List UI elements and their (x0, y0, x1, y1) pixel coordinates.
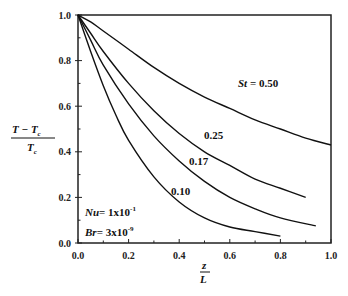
curve-label-st050: St = 0.50 (238, 77, 279, 89)
x-tick-label: 0.0 (72, 250, 85, 261)
y-tick-label: 0.8 (59, 55, 72, 66)
x-axis-label: z L (199, 259, 210, 285)
curves (78, 15, 331, 236)
y-tick-label: 0.4 (59, 146, 72, 157)
x-tick-label: 0.6 (224, 250, 237, 261)
x-tick-label: 0.2 (122, 250, 135, 261)
chart: 0.00.20.40.60.81.00.00.20.40.60.81.0 St … (0, 0, 348, 296)
y-tick-label: 0.6 (59, 101, 72, 112)
svg-text:L: L (199, 273, 207, 285)
svg-text:Tc: Tc (27, 141, 37, 156)
curve-label-017: 0.17 (189, 155, 209, 167)
curve-010 (78, 15, 280, 236)
x-tick-label: 1.0 (325, 250, 338, 261)
y-tick-label: 0.2 (59, 192, 72, 203)
y-tick-label: 0.0 (59, 238, 72, 249)
nu-annotation: Nu= 1x10-1 (84, 205, 136, 218)
curve-050 (78, 15, 331, 145)
curve-017 (78, 15, 316, 226)
svg-text:z: z (201, 259, 207, 271)
svg-text:T − Tc: T − Tc (12, 123, 41, 138)
y-axis-label: T − Tc Tc (11, 123, 55, 156)
curve-label-010: 0.10 (171, 185, 191, 197)
curve-label-025: 0.25 (204, 129, 224, 141)
y-tick-label: 1.0 (59, 10, 72, 21)
x-tick-label: 0.4 (173, 250, 186, 261)
x-tick-label: 0.8 (274, 250, 287, 261)
br-annotation: Br= 3x10-9 (84, 225, 134, 238)
